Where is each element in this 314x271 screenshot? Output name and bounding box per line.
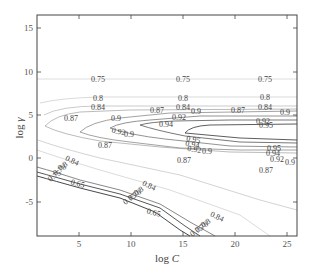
contour-label: 0.8 [93,94,103,103]
y-tick-label: -5 [26,197,34,207]
contour-label: 0.92 [187,144,202,155]
chart-svg: 5 10 15 20 25 15 10 5 0 -5 log C log γ 0… [0,0,314,271]
x-tick-label: 5 [77,239,82,249]
contour-label: 0.92 [270,155,284,164]
contour-label: 0.87 [259,166,273,175]
contour-label: 0.75 [258,75,272,84]
contour-label: 0.95 [259,121,273,130]
contour-065-lower [37,176,190,236]
x-tick-label: 20 [231,239,241,249]
contour-label: 0.94 [159,120,173,129]
contour-label: 0.9 [202,147,212,156]
contour-084-lower [38,140,297,210]
contour-label: 0.87 [231,106,245,115]
contour-label: 0.9 [111,114,121,123]
contour-label: 0.87 [98,141,112,150]
y-axis-label: log γ [13,117,25,139]
contour-label: 0.87 [177,156,191,165]
contour-095-upper [185,124,297,133]
contour-label: 0.8 [260,93,270,102]
x-axis-label: log C [155,252,180,264]
y-tick-label: 5 [29,110,34,120]
contour-label: 0.84 [176,103,190,112]
contour-label: 0.87 [150,106,164,115]
contour-chart: 5 10 15 20 25 15 10 5 0 -5 log C log γ 0… [0,0,314,271]
contour-labels: 0.75 0.75 0.75 0.8 0.8 0.8 0.84 0.84 0.8… [46,75,295,239]
contour-label: 0.9 [285,158,295,167]
contour-label: 0.9 [191,107,201,116]
contour-label: 0.84 [91,103,105,112]
x-tick-label: 15 [179,239,189,249]
x-tick-label: 25 [283,239,293,249]
contour-label: 0.75 [176,75,190,84]
contour-label: 0.84 [258,103,272,112]
x-tick-label: 10 [127,239,137,249]
contour-label: 0.92 [172,113,186,122]
y-tick-labels: 15 10 5 0 -5 [24,23,34,207]
contour-label: 0.8 [178,94,188,103]
y-tick-label: 0 [29,153,34,163]
contour-label: 0.87 [64,114,78,123]
y-tick-label: 15 [24,23,34,33]
contour-label: 0.65 [146,206,162,218]
contour-label: 0.75 [91,75,105,84]
contour-095-lower [185,133,297,140]
contour-label: 0.9 [124,130,134,139]
x-tick-labels: 5 10 15 20 25 [77,239,292,249]
contour-label: 0.9 [280,108,290,117]
contour-label: 0.65 [70,177,86,189]
y-tick-label: 10 [24,67,34,77]
contour-label: 0.84 [209,210,225,224]
